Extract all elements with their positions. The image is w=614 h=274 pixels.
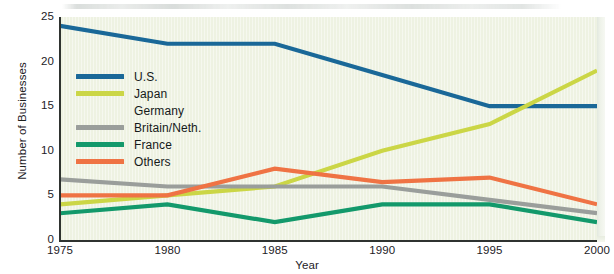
legend-item[interactable]: Japan	[76, 85, 246, 102]
legend-swatch-icon	[76, 142, 124, 147]
legend-item-label: Germany	[134, 104, 184, 118]
legend-item-label: Britain/Neth.	[134, 121, 201, 135]
y-tick-label: 10	[26, 144, 54, 156]
chart-figure: 0510152025 197519801985199019952000 Numb…	[0, 0, 614, 274]
y-tick-label: 20	[26, 55, 54, 67]
y-tick-label: 15	[26, 99, 54, 111]
x-tick: 1985	[253, 244, 297, 258]
x-tick: 1980	[145, 244, 189, 258]
y-tick-label: 25	[26, 10, 54, 22]
y-tick: 5	[26, 188, 54, 201]
y-axis-title: Number of Businesses	[16, 31, 28, 211]
x-tick-label: 1975	[38, 244, 82, 256]
y-axis-line	[59, 17, 61, 242]
x-axis-line	[59, 240, 597, 242]
legend-swatch-icon	[76, 125, 124, 130]
legend-swatch-icon	[76, 108, 124, 113]
x-tick-label: 2000	[575, 244, 614, 256]
series-line	[60, 204, 597, 222]
x-tick: 1995	[468, 244, 512, 258]
legend-item-label: France	[134, 138, 172, 152]
legend-item[interactable]: Britain/Neth.	[76, 119, 246, 136]
legend-item-label: Japan	[134, 87, 167, 101]
x-tick: 1990	[360, 244, 404, 258]
legend-swatch-icon	[76, 74, 124, 79]
legend-item[interactable]: France	[76, 136, 246, 153]
x-axis-title: Year	[0, 259, 614, 271]
chart-legend: U.S.JapanGermanyBritain/Neth.FranceOther…	[76, 68, 246, 170]
panel-edge-right	[596, 17, 605, 240]
legend-item-label: Others	[134, 155, 171, 169]
x-tick-label: 1985	[253, 244, 297, 256]
y-tick: 20	[26, 55, 54, 68]
legend-item[interactable]: U.S.	[76, 68, 246, 85]
x-tick: 1975	[38, 244, 82, 258]
y-tick: 15	[26, 99, 54, 112]
x-tick: 2000	[575, 244, 614, 258]
x-tick-label: 1980	[145, 244, 189, 256]
x-tick-label: 1995	[468, 244, 512, 256]
legend-swatch-icon	[76, 159, 124, 164]
y-tick: 10	[26, 144, 54, 157]
legend-item-label: U.S.	[134, 70, 158, 84]
legend-item[interactable]: Others	[76, 153, 246, 170]
x-tick-label: 1990	[360, 244, 404, 256]
legend-item[interactable]: Germany	[76, 102, 246, 119]
scan-artifact-text	[62, 4, 562, 9]
legend-swatch-icon	[76, 91, 124, 96]
y-tick-label: 5	[26, 188, 54, 200]
y-tick: 25	[26, 10, 54, 23]
